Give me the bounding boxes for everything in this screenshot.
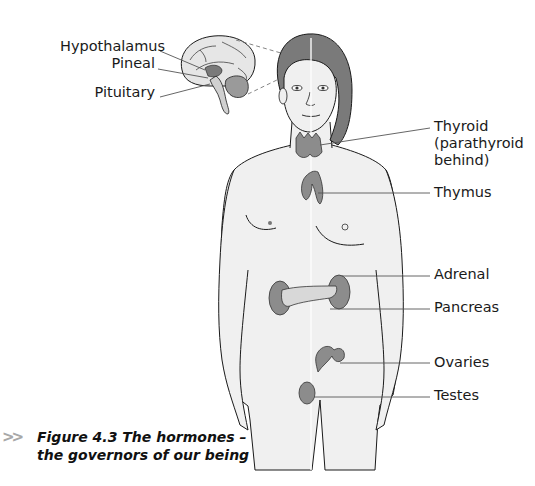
label-thyroid-line3: behind) [434, 152, 524, 169]
leader-line-pituitary [160, 84, 210, 97]
brain-thalamus [205, 65, 222, 77]
ear-left [279, 88, 287, 104]
caption-line-1: Figure 4.3 The hormones – [37, 428, 249, 446]
label-thyroid-line1: Thyroid [434, 118, 524, 135]
thyroid-gland [296, 132, 322, 158]
label-thymus: Thymus [434, 184, 492, 201]
label-pituitary: Pituitary [60, 84, 155, 101]
figure-caption: Figure 4.3 The hormones – the governors … [37, 428, 249, 464]
endocrine-diagram [0, 0, 535, 486]
pupil-left [295, 86, 298, 89]
label-adrenal: Adrenal [434, 266, 490, 283]
pupil-right [321, 86, 324, 89]
label-testes: Testes [434, 387, 479, 404]
label-ovaries: Ovaries [434, 354, 489, 371]
nipple-left [268, 221, 272, 225]
brain-cerebellum [225, 76, 248, 98]
caption-line-2: the governors of our being [37, 446, 249, 464]
caption-marker-icon: >> [2, 428, 21, 446]
label-pineal: Pineal [60, 55, 155, 72]
label-hypothalamus: Hypothalamus [60, 38, 155, 55]
label-thyroid: Thyroid (parathyroid behind) [434, 118, 524, 169]
human-body [219, 34, 404, 470]
testes-gland [299, 382, 315, 404]
label-pancreas: Pancreas [434, 299, 499, 316]
label-thyroid-line2: (parathyroid [434, 135, 524, 152]
